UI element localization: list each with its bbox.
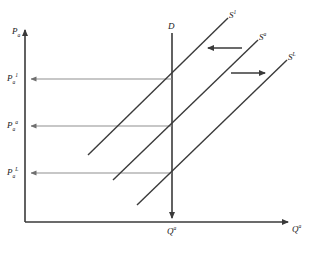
demand-curve-label: D [168, 22, 175, 31]
quantity-axis-label: Qa [292, 224, 301, 234]
supply-curve-short-run-label: S1 [229, 10, 236, 20]
supply-curve-long-run-label: SL [288, 52, 296, 62]
supply-curve-long-run-line [137, 60, 287, 205]
price-intermediate-label: Paa [7, 120, 18, 132]
price-long-run-label: PaL [7, 167, 18, 179]
price-axis-label: Pa [12, 27, 20, 38]
equilibrium-quantity-label: Qa [167, 226, 176, 236]
supply-curve-short-run-line [88, 18, 228, 155]
supply-curve-intermediate-label: Sa [259, 32, 266, 42]
price-short-run-label: Pa1 [7, 73, 18, 85]
supply-demand-figure: Pa Qa D S1 Sa SL Pa1 Paa PaL Qa [0, 0, 312, 257]
